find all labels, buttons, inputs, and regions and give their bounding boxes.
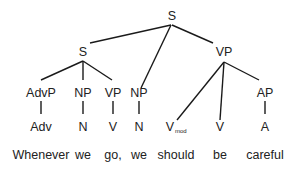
- node-main-vp: VP: [216, 45, 233, 59]
- word-careful: careful: [246, 148, 284, 162]
- edge-s-advp: [41, 61, 83, 80]
- node-n2: N: [134, 120, 143, 134]
- word-go: go,: [104, 148, 121, 162]
- tree-nodes: S S VP AdvP NP VP NP AP Adv N V N V mod …: [26, 9, 273, 134]
- node-v1: V: [109, 120, 118, 134]
- node-ap: AP: [257, 86, 274, 100]
- edge-s-vp1: [83, 61, 112, 80]
- node-adv: Adv: [30, 120, 52, 134]
- syntax-tree-diagram: S S VP AdvP NP VP NP AP Adv N V N V mod …: [0, 0, 298, 171]
- tree-edges: [41, 25, 265, 120]
- edge-root-np2: [141, 25, 171, 88]
- node-sub-s: S: [79, 45, 87, 59]
- word-whenever: Whenever: [13, 148, 70, 162]
- sentence-words: Whenever we go, we should be careful: [13, 148, 284, 162]
- node-a: A: [261, 120, 270, 134]
- edge-vp-vmod: [177, 62, 224, 120]
- edge-root-s: [90, 25, 171, 43]
- word-we-2: we: [130, 148, 147, 162]
- node-vp1: VP: [105, 86, 122, 100]
- node-v2: V: [216, 120, 225, 134]
- node-root-s: S: [168, 9, 176, 23]
- node-np1: NP: [74, 86, 91, 100]
- node-vmod: V: [166, 120, 175, 134]
- node-n1: N: [78, 120, 87, 134]
- edge-vp-ap: [224, 62, 259, 80]
- edge-root-vp: [172, 25, 213, 43]
- node-np2: NP: [130, 86, 147, 100]
- word-we-1: we: [74, 148, 91, 162]
- node-vmod-subscript: mod: [175, 128, 187, 134]
- word-be: be: [213, 148, 227, 162]
- node-advp: AdvP: [26, 86, 56, 100]
- word-should: should: [158, 148, 195, 162]
- edge-vp-v2: [220, 62, 224, 120]
